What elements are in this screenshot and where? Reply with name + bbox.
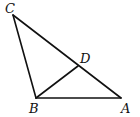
segment-CA (13, 15, 121, 98)
vertex-label-b: B (28, 101, 39, 116)
segment-BD (36, 66, 78, 98)
segment-CB (13, 15, 36, 98)
triangle-diagram: C B A D (0, 0, 140, 117)
point-label-d: D (79, 51, 91, 66)
vertex-label-a: A (120, 101, 130, 116)
vertex-label-c: C (5, 1, 15, 16)
